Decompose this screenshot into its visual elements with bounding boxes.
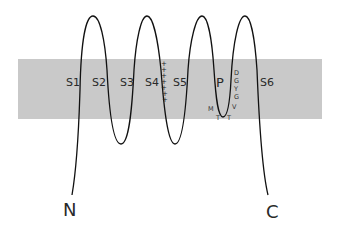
c-terminus-label: C xyxy=(266,201,279,222)
residue: T xyxy=(215,114,220,122)
segment-label-s2: S2 xyxy=(92,76,106,89)
residue: Y xyxy=(233,85,238,93)
segment-label-s4: S4 xyxy=(145,76,159,89)
segment-label-s1: S1 xyxy=(66,76,80,89)
plus-icon: + xyxy=(162,96,168,104)
segment-label-p: P xyxy=(216,75,224,90)
channel-topology-diagram: S1 S2 S3 S4 S5 P S6 + + + + + + + D G Y … xyxy=(0,0,337,227)
segment-label-s6: S6 xyxy=(260,76,274,89)
residue: T xyxy=(226,114,231,122)
segment-label-s3: S3 xyxy=(120,76,134,89)
n-terminus-label: N xyxy=(63,199,76,220)
residue: G xyxy=(234,77,239,85)
residue: D xyxy=(234,69,239,77)
segment-label-s5: S5 xyxy=(173,76,187,89)
residue: M xyxy=(208,105,214,113)
membrane-band xyxy=(18,59,322,119)
residue: V xyxy=(232,103,237,111)
residue: G xyxy=(234,93,239,101)
